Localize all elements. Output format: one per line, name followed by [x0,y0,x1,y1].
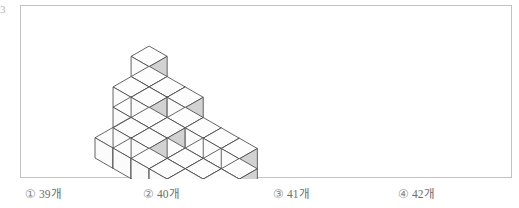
option-4-number: ④ [398,188,409,200]
option-3-label: 41개 [287,188,310,200]
option-1-number: ① [25,188,36,200]
option-3[interactable]: ③41개 [273,186,310,202]
page-edge-artifact: 3 [0,2,7,16]
option-4-label: 42개 [412,188,435,200]
option-2-label: 40개 [157,188,180,200]
answer-options: ①39개 ②40개 ③41개 ④42개 [0,186,519,206]
figure-frame [20,5,512,178]
question-figure-page: 3 ①39개 ②40개 ③41개 ④42개 [0,0,519,208]
option-1[interactable]: ①39개 [25,186,62,202]
option-1-label: 39개 [39,188,62,200]
option-2-number: ② [143,188,154,200]
option-3-number: ③ [273,188,284,200]
option-4[interactable]: ④42개 [398,186,435,202]
isometric-cube-stack [21,6,513,179]
option-2[interactable]: ②40개 [143,186,180,202]
